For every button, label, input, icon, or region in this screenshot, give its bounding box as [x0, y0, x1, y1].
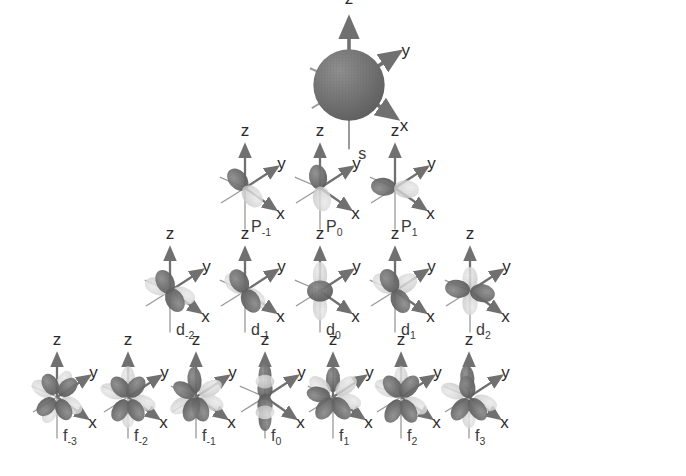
axis-label-y: y — [401, 41, 410, 60]
orbital-label-main: d — [251, 321, 260, 338]
axis-label-y: y — [352, 257, 361, 276]
axis-label-y: y — [352, 154, 361, 173]
axis-label-z: z — [192, 330, 201, 349]
axis-label-y: y — [427, 257, 436, 276]
axis-label-z: z — [397, 330, 406, 349]
axis-label-z: z — [345, 0, 354, 8]
axis-label-x: x — [426, 307, 435, 326]
axis-label-y: y — [501, 363, 510, 382]
axis-label-z: z — [316, 121, 325, 140]
axis-label-y: y — [228, 363, 237, 382]
orbital-label-subscript: -2 — [138, 435, 147, 447]
axis-label-y: y — [502, 257, 511, 276]
axis-label-z: z — [124, 330, 133, 349]
axis-label-z: z — [53, 330, 62, 349]
orbital-label-main: P — [251, 218, 262, 235]
axis-label-z: z — [391, 224, 400, 243]
axis-label-x: x — [351, 204, 360, 223]
axis-label-x: x — [400, 116, 409, 135]
axis-label-y: y — [365, 363, 374, 382]
orbital-label-subscript: 3 — [479, 435, 485, 447]
axis-label-z: z — [166, 224, 175, 243]
axis-label-x: x — [432, 413, 441, 432]
orbital-label-subscript: 2 — [411, 435, 417, 447]
axis-label-x: x — [227, 413, 236, 432]
orbital-label-subscript: -1 — [262, 226, 271, 238]
orbital-label-subscript: 1 — [410, 329, 416, 341]
orbital-torus-texture — [307, 281, 333, 302]
axis-label-y: y — [297, 363, 306, 382]
orbital-label-subscript: 1 — [412, 226, 418, 238]
orbital-label-main: P — [401, 218, 412, 235]
orbital-label-subscript: -1 — [206, 435, 215, 447]
axis-label-x: x — [159, 413, 168, 432]
axis-label-x: x — [276, 307, 285, 326]
orbital-diagram: zyxszyxP-1zyxP0zyxP1zyxd-2zyxd-1zyxd0zyx… — [0, 0, 686, 476]
axis-label-z: z — [241, 224, 250, 243]
axis-label-y: y — [160, 363, 169, 382]
axis-label-y: y — [89, 363, 98, 382]
axis-label-z: z — [465, 330, 474, 349]
orbital-sphere-texture — [313, 49, 384, 120]
axis-label-x: x — [296, 413, 305, 432]
orbital-lobe-texture — [256, 375, 275, 389]
axis-label-z: z — [329, 330, 338, 349]
orbital-label-subscript: 0 — [275, 435, 281, 447]
axis-label-y: y — [277, 257, 286, 276]
axis-label-z: z — [466, 224, 475, 243]
axis-label-z: z — [316, 224, 325, 243]
axis-label-z: z — [261, 330, 270, 349]
axis-label-y: y — [202, 257, 211, 276]
axis-label-x: x — [201, 307, 210, 326]
orbital-lobe-texture — [256, 406, 275, 420]
orbital-label-main: P — [326, 218, 337, 235]
axis-label-x: x — [364, 413, 373, 432]
axis-label-x: x — [501, 307, 510, 326]
orbital-label-subscript: 0 — [337, 226, 343, 238]
orbital-label-subscript: -3 — [67, 435, 76, 447]
orbital-label-main: d — [176, 321, 185, 338]
axis-label-x: x — [351, 307, 360, 326]
axis-label-x: x — [88, 413, 97, 432]
axis-label-x: x — [276, 204, 285, 223]
orbital-label-subscript: 2 — [485, 329, 491, 341]
axis-label-z: z — [391, 121, 400, 140]
axis-label-x: x — [426, 204, 435, 223]
axis-label-z: z — [241, 121, 250, 140]
axis-label-y: y — [277, 154, 286, 173]
axis-label-y: y — [427, 154, 436, 173]
axis-label-y: y — [433, 363, 442, 382]
orbital-label-main: d — [476, 321, 485, 338]
axis-label-x: x — [500, 413, 509, 432]
orbital-label-subscript: 1 — [343, 435, 349, 447]
